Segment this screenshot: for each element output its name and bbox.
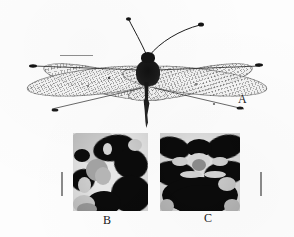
- scale-bar-panel-b: [61, 172, 63, 196]
- panel-label-a: A: [238, 92, 247, 107]
- panel-label-c: C: [204, 211, 212, 226]
- wing-spot-4: [213, 103, 215, 105]
- wing-spot-2: [87, 85, 89, 87]
- head: [141, 52, 155, 63]
- scale-bar-panel-c: [260, 172, 262, 196]
- pterostigma-hindwing-left-icon: [52, 108, 59, 111]
- panel-label-b: B: [103, 213, 111, 228]
- wing-spot-3: [195, 83, 197, 85]
- panel-b-closeup: [73, 133, 148, 211]
- wing-spot-1: [108, 77, 110, 79]
- costa-hindwing-left: [52, 88, 142, 109]
- costa-forewing-right: [156, 66, 260, 70]
- pterostigma-forewing-right-icon: [255, 63, 263, 66]
- figure-plate: A: [0, 0, 294, 237]
- scale-bar-panel-a: [60, 55, 93, 56]
- pterostigma-forewing-left-icon: [29, 64, 37, 67]
- panel-a-whole-insect: A: [0, 0, 294, 140]
- costa-forewing-left: [34, 66, 140, 70]
- panel-c-closeup: [160, 133, 240, 211]
- costa-hindwing-right: [154, 88, 244, 109]
